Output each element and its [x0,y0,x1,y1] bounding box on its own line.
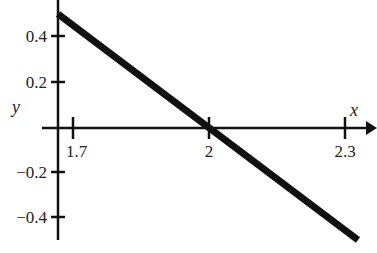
y-tick-label: 0.2 [26,73,47,92]
x-axis-arrow-icon [366,121,377,135]
chart: 0.4 0.2 −0.2 −0.4 1.7 2 2.3 y x [0,0,377,253]
x-axis-label: x [349,100,358,120]
y-tick-label: −0.4 [16,208,47,227]
x-tick-label: 1.7 [66,142,88,161]
y-tick-label: −0.2 [16,163,47,182]
y-tick-label: 0.4 [26,27,48,46]
x-tick-label: 2 [205,142,214,161]
y-axis-label: y [10,97,20,117]
x-tick-label: 2.3 [334,142,355,161]
